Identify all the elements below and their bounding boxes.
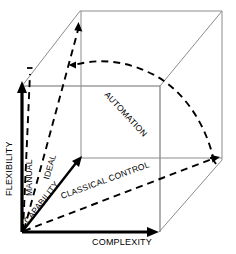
automation-trajectory <box>69 61 217 164</box>
automation-dashed-curve <box>74 61 214 161</box>
manual-label: MANUAL <box>24 159 34 196</box>
ideal-dashed-line <box>24 30 78 230</box>
classical-control-arrowhead <box>211 155 220 163</box>
manual-dashed-line <box>23 74 30 231</box>
cube-wireframe <box>22 11 222 232</box>
flexibility-axis-label: FLEXIBILITY <box>4 141 14 196</box>
automation-label: AUTOMATION <box>103 90 150 139</box>
ideal-trajectory <box>24 22 82 230</box>
capability-cube-diagram: FLEXIBILITY COMPLEXITY CAPABILITY MANUAL… <box>0 0 236 254</box>
complexity-axis-label: COMPLEXITY <box>92 237 152 247</box>
labels-group: FLEXIBILITY COMPLEXITY CAPABILITY MANUAL… <box>4 90 152 247</box>
flexibility-axis-arrowhead <box>17 81 27 93</box>
figure-container: FLEXIBILITY COMPLEXITY CAPABILITY MANUAL… <box>0 0 236 254</box>
cube-edge-top-right-recede <box>160 11 222 86</box>
cube-edge-back-bottom <box>159 160 222 232</box>
complexity-axis-arrowhead <box>147 227 159 237</box>
